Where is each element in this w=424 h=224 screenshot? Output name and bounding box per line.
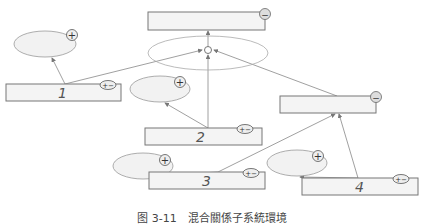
svg-text:−: − (261, 10, 269, 20)
diagram-canvas: − + 1 +− + 2 +− − + 3 (0, 0, 424, 224)
svg-text:+: + (314, 151, 322, 162)
svg-text:+−: +− (239, 126, 251, 134)
ellipse-2[interactable]: + (130, 76, 190, 102)
svg-text:3: 3 (202, 173, 211, 189)
box-3[interactable]: 3 +− (149, 169, 265, 190)
svg-text:+−: +− (102, 82, 114, 90)
svg-text:2: 2 (196, 129, 205, 145)
svg-text:−: − (372, 93, 380, 103)
svg-text:+: + (68, 30, 76, 41)
ellipse-4[interactable]: + (267, 150, 327, 176)
ellipse-1[interactable]: + (14, 30, 78, 58)
junction-node (205, 47, 212, 54)
svg-text:+−: +− (245, 170, 257, 178)
box-4[interactable]: 4 +− (302, 175, 418, 196)
right-box[interactable]: − (280, 92, 382, 114)
figure-caption: 图 3-11 混合關係子系統環境 (0, 209, 424, 224)
svg-text:4: 4 (355, 179, 364, 195)
top-box[interactable]: − (148, 9, 271, 31)
svg-text:+−: +− (395, 176, 407, 184)
svg-text:1: 1 (58, 85, 67, 101)
svg-text:+: + (161, 155, 169, 166)
box-1[interactable]: 1 +− (6, 81, 121, 102)
svg-text:+: + (176, 77, 184, 88)
box-2[interactable]: 2 +− (145, 125, 262, 146)
